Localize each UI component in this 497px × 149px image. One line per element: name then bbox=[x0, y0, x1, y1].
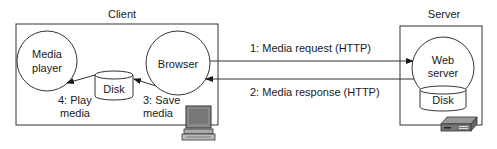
svg-text:Disk: Disk bbox=[432, 94, 454, 106]
step3-label: 3: Save bbox=[143, 94, 180, 106]
media-player-node: Media player bbox=[17, 31, 77, 91]
client-disk-icon: Disk bbox=[95, 71, 133, 100]
streaming-diagram: Client Media player Browser Disk 4: Play… bbox=[0, 0, 497, 149]
svg-text:Browser: Browser bbox=[158, 58, 199, 70]
svg-text:Web: Web bbox=[432, 54, 454, 66]
server-box-icon bbox=[441, 117, 477, 131]
svg-text:server: server bbox=[428, 67, 459, 79]
svg-text:player: player bbox=[32, 62, 62, 74]
response-label: 2: Media response (HTTP) bbox=[250, 86, 380, 98]
server-disk-icon: Disk bbox=[420, 86, 466, 111]
svg-text:Disk: Disk bbox=[103, 83, 125, 95]
client-label: Client bbox=[108, 8, 136, 20]
server-label: Server bbox=[428, 8, 461, 20]
request-label: 1: Media request (HTTP) bbox=[250, 42, 371, 54]
step4-label: 4: Play bbox=[58, 94, 92, 106]
svg-text:Media: Media bbox=[32, 48, 63, 60]
svg-text:media: media bbox=[143, 107, 174, 119]
desktop-computer-icon bbox=[182, 106, 215, 140]
svg-text:media: media bbox=[60, 107, 91, 119]
